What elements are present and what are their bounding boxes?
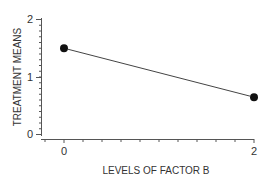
y-axis — [36, 18, 42, 136]
x-tick-label: 0 — [61, 145, 67, 157]
x-axis — [41, 139, 254, 143]
y-tick-label: 2 — [27, 13, 33, 25]
y-tick-label: 0 — [27, 128, 33, 140]
y-tick-label: 1 — [27, 71, 33, 83]
data-point — [250, 93, 258, 101]
data-point — [60, 44, 68, 52]
series-line — [68, 49, 250, 96]
y-axis-label: TREATMENT MEANS — [12, 27, 23, 126]
chart: 2 1 0 0 2 LEVELS OF FACTOR B TREATMENT M… — [0, 0, 271, 182]
x-tick-label: 2 — [251, 145, 257, 157]
x-axis-label: LEVELS OF FACTOR B — [102, 165, 209, 176]
